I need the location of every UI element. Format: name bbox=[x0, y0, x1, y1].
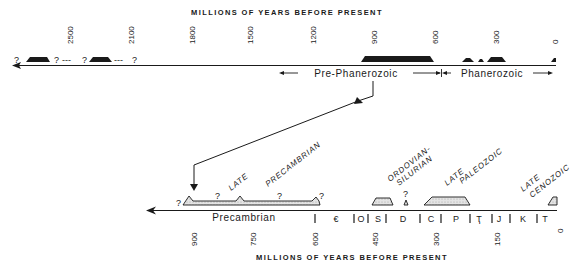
dash-line: --- bbox=[114, 55, 123, 65]
top-axis-ticks: 2500 2100 1800 1500 1200 900 600 300 0 bbox=[66, 26, 560, 44]
glaciation-timeline-diagram: MILLIONS OF YEARS BEFORE PRESENT 2500 21… bbox=[0, 0, 574, 274]
bottom-tick-0: 0 bbox=[556, 228, 565, 233]
glaciation-bar-late-paleozoic bbox=[487, 57, 506, 62]
period-tertiary: T bbox=[542, 214, 548, 224]
devonian-glaciation bbox=[404, 200, 408, 205]
question-mark: ? bbox=[319, 191, 324, 201]
period-silurian: S bbox=[375, 214, 381, 224]
glaciation-bar-late-cenozoic bbox=[551, 58, 556, 62]
glaciation-bar-late-precambrian bbox=[361, 56, 434, 62]
glaciation-bar-2500 bbox=[26, 57, 50, 62]
question-mark: ? bbox=[215, 191, 220, 201]
question-mark: ? bbox=[82, 55, 87, 65]
period-permian: P bbox=[453, 214, 459, 224]
left-arrow-icon bbox=[279, 71, 284, 75]
arrowhead-down-icon bbox=[190, 184, 198, 191]
top-tick-1800: 1800 bbox=[188, 26, 197, 44]
bottom-tick-900: 900 bbox=[190, 232, 199, 246]
top-tick-0: 0 bbox=[551, 39, 560, 44]
late-paleozoic-glaciation bbox=[424, 197, 470, 205]
bottom-tick-150: 150 bbox=[493, 232, 502, 246]
period-carboniferous: C bbox=[428, 214, 435, 224]
glaciation-bar-silurian bbox=[478, 59, 484, 62]
glaciation-bar-2300 bbox=[89, 57, 112, 62]
late-precambrian-glaciation bbox=[183, 196, 320, 205]
late-paleozoic-label-2: PALEOZOIC bbox=[458, 146, 505, 185]
top-axis-title: MILLIONS OF YEARS BEFORE PRESENT bbox=[191, 8, 383, 17]
question-mark: ? bbox=[54, 55, 59, 65]
top-tick-1500: 1500 bbox=[246, 26, 255, 44]
top-tick-600: 600 bbox=[431, 30, 440, 44]
precambrian-label: Precambrian bbox=[212, 212, 275, 223]
bottom-tick-300: 300 bbox=[432, 232, 441, 246]
period-jurassic: J bbox=[497, 214, 502, 224]
period-cretaceous: K bbox=[520, 214, 526, 224]
question-mark: ? bbox=[277, 191, 282, 201]
top-tick-1200: 1200 bbox=[309, 26, 318, 44]
late-cenozoic-glaciation bbox=[548, 197, 557, 205]
right-arrow-icon bbox=[548, 71, 553, 75]
top-tick-900: 900 bbox=[370, 30, 379, 44]
period-cambrian: € bbox=[333, 214, 338, 224]
bottom-axis-ticks: 900 750 600 450 300 150 0 bbox=[190, 228, 565, 246]
top-glaciation-bars bbox=[26, 56, 556, 62]
dash-line: --- bbox=[62, 55, 71, 65]
period-triassic: Ҭ bbox=[476, 214, 482, 224]
top-tick-300: 300 bbox=[492, 30, 501, 44]
period-devonian: D bbox=[400, 214, 407, 224]
bottom-axis-title: MILLIONS OF YEARS BEFORE PRESENT bbox=[256, 253, 448, 262]
period-separators bbox=[315, 214, 537, 223]
period-ordovician: O bbox=[357, 214, 364, 224]
ordovician-silurian-glaciation bbox=[372, 198, 393, 205]
top-tick-2500: 2500 bbox=[66, 26, 75, 44]
left-arrow-icon bbox=[442, 71, 447, 75]
question-mark: ? bbox=[403, 189, 408, 199]
late-precambrian-label-2: PRECAMBRIAN bbox=[264, 140, 323, 189]
bottom-tick-750: 750 bbox=[249, 232, 258, 246]
phanerozoic-label: Phanerozoic bbox=[461, 68, 523, 79]
late-precambrian-label-1: LATE bbox=[227, 172, 250, 193]
arrowhead-icon bbox=[354, 97, 363, 104]
question-mark: ? bbox=[176, 198, 181, 208]
right-arrow-icon bbox=[436, 71, 441, 75]
question-mark: ? bbox=[132, 55, 137, 65]
bottom-tick-600: 600 bbox=[311, 232, 320, 246]
pre-phanerozoic-label: Pre-Phanerozoic bbox=[314, 68, 397, 79]
top-tick-2100: 2100 bbox=[127, 26, 136, 44]
bottom-tick-450: 450 bbox=[371, 232, 380, 246]
glaciation-bar-ordovician bbox=[462, 58, 474, 62]
